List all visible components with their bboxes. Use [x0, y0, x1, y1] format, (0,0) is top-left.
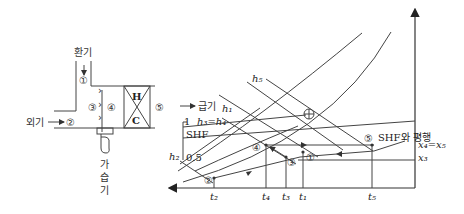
humidifier-label-2: 습 [100, 172, 109, 183]
t3-label: t₃ [282, 191, 290, 202]
supply-air-label: 급기 [198, 101, 216, 112]
point-1-label: ① [79, 75, 88, 86]
humidification-process-line [270, 147, 286, 157]
coil-cooling-label: C [132, 115, 140, 126]
state-point-3: ③ [287, 157, 296, 168]
x4-eq-x5-label: x₄=x₅ [418, 139, 446, 150]
outdoor-air-label: 외기 [26, 117, 44, 128]
h3-eq-h4-label: h₃=h₄ [197, 116, 226, 127]
svg-text:›: › [98, 99, 102, 110]
h5-label: h₅ [252, 73, 262, 84]
t2-label: t₂ [210, 191, 218, 202]
t5-label: t₅ [368, 191, 376, 202]
point-5-label: ⑤ [155, 102, 164, 113]
shf-scale-top: 1 [184, 116, 190, 127]
point-2-label: ② [66, 117, 75, 128]
x3-label: x₃ [418, 152, 428, 163]
state-point-2: ② [204, 175, 213, 186]
shf-label: SHF [186, 129, 209, 140]
state-point-4: ④ [252, 142, 261, 153]
t4-label: t₄ [262, 191, 270, 202]
state-point-5: ⑤ [364, 133, 373, 144]
point-4-label: ④ [107, 102, 116, 113]
return-air-label: 환기 [74, 47, 92, 58]
air-conditioning-diagram: › › › 환기 ① 외기 ② ③ ④ ⑤ H C 급기 가 습 기 [0, 0, 464, 214]
coil-heating-label: H [132, 91, 141, 102]
humidifier-label-1: 가 [100, 159, 109, 170]
svg-text:›: › [98, 85, 102, 96]
svg-text:›: › [98, 112, 102, 123]
point-3-label: ③ [88, 102, 97, 113]
shf-scale-mid: 0.5 [186, 152, 202, 163]
state-point-1: ① [306, 152, 315, 163]
crosshair-icon [304, 109, 314, 119]
humidifier-icon [101, 134, 109, 153]
humidifier-label-3: 기 [100, 185, 109, 196]
h1-label: h₁ [222, 103, 232, 114]
h2-label: h₂ [169, 151, 179, 162]
t1-label: t₁ [299, 191, 307, 202]
